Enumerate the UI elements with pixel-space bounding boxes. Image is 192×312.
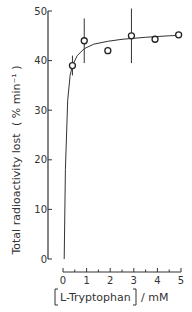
chart: 01020304050 012345 Total radioactivity l…	[0, 0, 192, 312]
x-tick-label: 4	[154, 275, 160, 286]
y-tick-label: 50	[34, 6, 47, 17]
x-tick-label: 2	[107, 275, 113, 286]
y-axis-title: Total radioactivity lost ( % min⁻¹ )	[10, 65, 23, 255]
svg-text:Total radioactivity lost: Total radioactivity lost ( % min⁻¹ )	[10, 65, 23, 255]
x-tick-label: 3	[131, 275, 137, 286]
y-tick-label: 40	[34, 55, 47, 66]
data-point	[176, 32, 182, 38]
fitted-curve	[64, 35, 181, 259]
y-tick-label: 20	[34, 154, 47, 165]
data-point	[69, 63, 75, 69]
y-axis-title-main: Total radioactivity lost	[10, 133, 23, 256]
x-axis-title: L-Tryptophan / mM	[55, 289, 168, 305]
y-tick-label: 10	[34, 204, 47, 215]
plot-area	[64, 9, 181, 259]
data-point	[81, 38, 87, 44]
left-bracket	[55, 289, 58, 305]
data-point	[152, 36, 158, 42]
right-bracket	[133, 289, 136, 305]
y-axis-title-unit: ( % min⁻¹ )	[10, 65, 23, 125]
x-tick-label: 5	[178, 275, 184, 286]
x-axis: 012345	[60, 268, 184, 286]
y-axis: 01020304050	[34, 6, 52, 265]
x-axis-title-text: L-Tryptophan	[60, 291, 131, 304]
x-axis-unit: / mM	[141, 291, 168, 304]
x-tick-label: 1	[83, 275, 89, 286]
y-tick-label: 0	[41, 254, 47, 265]
x-tick-label: 0	[60, 275, 66, 286]
y-tick-label: 30	[34, 105, 47, 116]
data-point	[105, 48, 111, 54]
data-point	[128, 33, 134, 39]
